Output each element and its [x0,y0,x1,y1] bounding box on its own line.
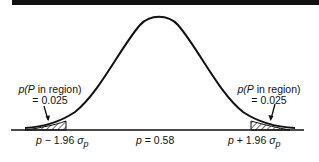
right-rejection-region [251,121,290,130]
left-annotation-value: = 0.025 [14,95,86,106]
right-annotation-prob: p( [237,83,246,95]
left-annotation-prob: p( [18,83,27,95]
right-annotation-value: = 0.025 [233,95,305,106]
right-critical-label: p + 1.96 σp [228,135,281,147]
center-mean-label: p = 0.58 [136,135,174,146]
bell-curve [25,17,295,128]
right-tail-annotation: p(P in region) = 0.025 [233,84,305,106]
left-critical-label: p − 1.96 σp [36,135,89,147]
left-tail-annotation: p(P in region) = 0.025 [14,84,86,106]
